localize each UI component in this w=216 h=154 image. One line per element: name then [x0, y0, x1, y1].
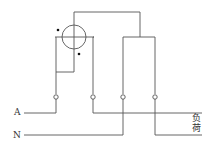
wire-line-in — [24, 99, 56, 113]
terminal-3 — [121, 95, 125, 99]
wire-neutral-bridge — [123, 37, 155, 94]
terminal-4 — [153, 95, 157, 99]
polarity-dot-current — [57, 29, 60, 32]
polarity-dot-voltage — [78, 53, 81, 56]
wiring-diagram — [0, 0, 216, 154]
wire-neutral-in — [24, 99, 123, 135]
label-load-1: 负 — [192, 114, 201, 123]
wire-load-line — [93, 99, 202, 113]
wire-voltage-top — [74, 12, 140, 37]
label-neutral-n: N — [13, 131, 21, 140]
terminal-1 — [54, 95, 58, 99]
label-line-a: A — [14, 108, 21, 117]
wire-coil-terminal2 — [93, 37, 94, 94]
terminal-2 — [91, 95, 95, 99]
label-load-2: 荷 — [192, 124, 201, 133]
